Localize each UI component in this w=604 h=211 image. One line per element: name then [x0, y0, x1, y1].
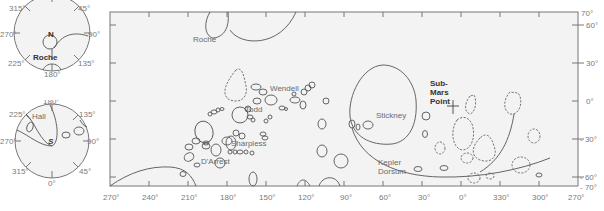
x-tick-210: 210°: [181, 193, 198, 202]
label-roche: Roche: [193, 35, 217, 44]
y-tick-neg30: - 30°: [580, 135, 597, 144]
x-tick-0: 0°: [459, 193, 467, 202]
x-tick-180: 180°: [220, 193, 237, 202]
x-tick-90: 90°: [340, 193, 352, 202]
x-tick-150: 150°: [259, 193, 276, 202]
south-tick-225: 225°: [9, 110, 26, 119]
label-sub-mars-1: Sub-: [430, 79, 448, 88]
north-tick-180: 180°: [44, 70, 61, 79]
x-tick-240: 240°: [142, 193, 159, 202]
south-tick-0: 0°: [48, 179, 56, 188]
main-map: Roche Wendell Todd Sharpless D'Arrest St…: [100, 0, 604, 211]
map-frame: [110, 12, 578, 186]
north-hemisphere-map: N Roche 315° 45° 270° 90° 225° 135° 180°: [0, 0, 100, 100]
y-tick-30: 30°: [586, 59, 598, 68]
north-tick-135: 135°: [78, 59, 95, 68]
south-tick-180: 180°: [43, 100, 60, 106]
north-tick-315: 315°: [9, 4, 26, 13]
south-tick-45: 45°: [79, 167, 91, 176]
south-tick-315: 315°: [12, 167, 29, 176]
south-tick-135: 135°: [79, 110, 96, 119]
y-tick-0: 0°: [586, 97, 594, 106]
south-pole-label: S: [48, 137, 54, 146]
label-sharpless: Sharpless: [231, 139, 267, 148]
x-tick-270-right: 270°: [568, 193, 585, 202]
north-roche-label: Roche: [33, 53, 58, 62]
south-hemisphere-svg: Hall S 180° 225° 135° 270° 90° 315° 45° …: [0, 100, 100, 211]
north-tick-90: 90°: [88, 30, 100, 39]
x-tick-330: 330°: [493, 193, 510, 202]
x-tick-30: 30°: [418, 193, 430, 202]
y-tick-neg60: - 60°: [580, 173, 597, 182]
label-dorsum: Dorsum: [378, 167, 406, 176]
south-tick-270: 270°: [0, 137, 17, 146]
north-tick-45: 45°: [78, 4, 90, 13]
x-tick-120: 120°: [298, 193, 315, 202]
label-todd: Todd: [245, 105, 262, 114]
x-tick-300: 300°: [532, 193, 549, 202]
north-pole-label: N: [48, 30, 54, 39]
south-hemisphere-map: Hall S 180° 225° 135° 270° 90° 315° 45° …: [0, 100, 100, 211]
x-tick-270-left: 270°: [103, 193, 120, 202]
label-sub-mars-3: Point: [430, 97, 450, 106]
label-d-arrest: D'Arrest: [201, 157, 230, 166]
south-hall-label: Hall: [32, 112, 46, 121]
y-tick-60: 60°: [586, 21, 598, 30]
north-tick-270: 270°: [0, 30, 17, 39]
label-stickney: Stickney: [376, 111, 406, 120]
label-sub-mars-2: Mars: [430, 88, 449, 97]
north-tick-225: 225°: [8, 59, 25, 68]
north-hemisphere-svg: N Roche 315° 45° 270° 90° 225° 135° 180°: [0, 0, 100, 100]
label-wendell: Wendell: [270, 84, 299, 93]
south-tick-90: 90°: [87, 137, 99, 146]
x-tick-60: 60°: [379, 193, 391, 202]
label-kepler: Kepler: [378, 158, 401, 167]
y-tick-neg70: - 70°: [580, 183, 597, 192]
main-map-svg: Roche Wendell Todd Sharpless D'Arrest St…: [100, 0, 604, 211]
y-tick-70: 70°: [581, 9, 593, 18]
